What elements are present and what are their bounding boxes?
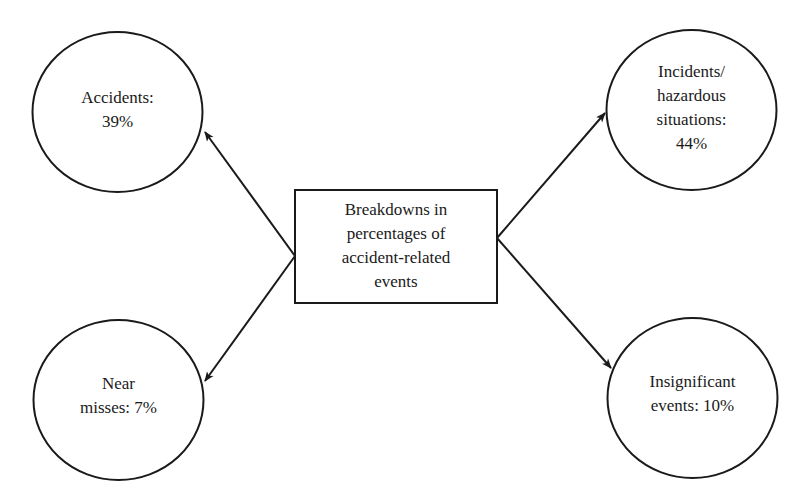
accidents-line-1: Accidents: bbox=[32, 86, 203, 110]
insignificant-line-1: Insignificant bbox=[607, 370, 778, 394]
insignificant-line-2: events: 10% bbox=[607, 394, 778, 418]
arrow-to-accidents bbox=[205, 132, 295, 256]
arrow-to-insignificant-events bbox=[497, 238, 611, 368]
center-line-1: Breakdowns in bbox=[295, 198, 497, 222]
arrow-to-near-misses bbox=[205, 256, 295, 381]
incidents-line-2: hazardous bbox=[606, 84, 777, 108]
near-misses-line-2: misses: 7% bbox=[33, 396, 204, 420]
node-accidents-label: Accidents: 39% bbox=[32, 86, 203, 134]
incidents-line-4: 44% bbox=[606, 132, 777, 156]
center-line-4: events bbox=[295, 270, 497, 294]
node-insignificant-events-label: Insignificant events: 10% bbox=[607, 370, 778, 418]
center-box-label: Breakdowns in percentages of accident-re… bbox=[295, 198, 497, 294]
incidents-line-1: Incidents/ bbox=[606, 60, 777, 84]
accidents-line-2: 39% bbox=[32, 110, 203, 134]
node-near-misses-label: Near misses: 7% bbox=[33, 372, 204, 420]
center-line-2: percentages of bbox=[295, 222, 497, 246]
center-line-3: accident-related bbox=[295, 246, 497, 270]
arrow-to-incidents-hazardous-situations bbox=[497, 113, 605, 238]
near-misses-line-1: Near bbox=[33, 372, 204, 396]
incidents-line-3: situations: bbox=[606, 108, 777, 132]
node-incidents-label: Incidents/ hazardous situations: 44% bbox=[606, 60, 777, 156]
